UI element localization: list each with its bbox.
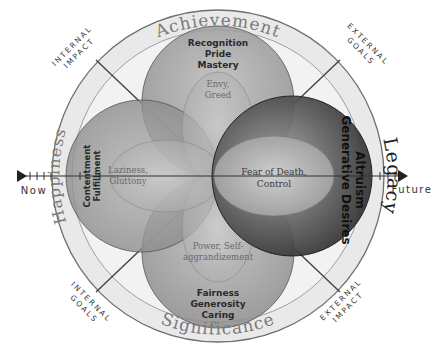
svg-text:Gluttony: Gluttony	[109, 176, 146, 186]
svg-text:Mastery: Mastery	[197, 60, 238, 70]
svg-text:Fulfillment: Fulfillment	[92, 150, 102, 201]
svg-text:Caring: Caring	[201, 310, 234, 320]
timeline-now-label: Now	[21, 185, 47, 196]
now-arrow-icon	[17, 170, 27, 182]
happiness-positive-values: Contentment Fulfillment	[82, 145, 102, 208]
timeline-future-label: Future	[392, 184, 433, 195]
significance-negative-values: Power, Self- aggrandizement	[183, 241, 254, 262]
svg-text:Control: Control	[257, 179, 291, 189]
achievement-negative-values: Envy, Greed	[205, 79, 232, 100]
corner-label-external-goals: EXTERNAL GOALS	[338, 21, 390, 73]
svg-text:Fear of Death,: Fear of Death,	[241, 167, 306, 177]
svg-text:Envy,: Envy,	[207, 79, 230, 89]
svg-text:Recognition: Recognition	[188, 38, 248, 48]
svg-text:Generosity: Generosity	[190, 299, 245, 309]
svg-text:Fairness: Fairness	[197, 288, 239, 298]
svg-text:Pride: Pride	[205, 49, 232, 59]
happiness-negative-values: Laziness, Gluttony	[108, 165, 148, 186]
svg-text:aggrandizement: aggrandizement	[183, 252, 254, 262]
svg-text:Greed: Greed	[205, 90, 232, 100]
svg-text:Generative Desires: Generative Desires	[339, 115, 353, 244]
values-circle-diagram: Achievement Significance Happiness Legac…	[0, 0, 436, 356]
svg-text:Contentment: Contentment	[82, 145, 92, 208]
svg-text:Altruism: Altruism	[353, 151, 367, 208]
svg-text:Laziness,: Laziness,	[108, 165, 148, 175]
svg-text:Power, Self-: Power, Self-	[193, 241, 244, 251]
